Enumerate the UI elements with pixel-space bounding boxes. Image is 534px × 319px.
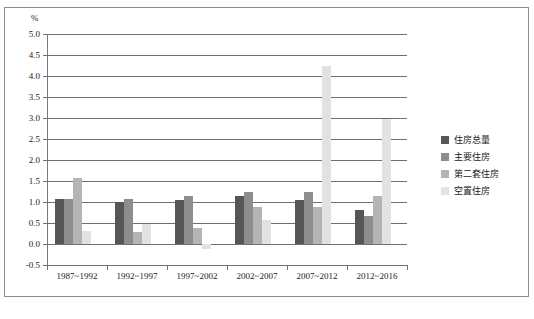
y-axis-tick-label: -0.5 [0, 261, 40, 270]
x-axis-tick-label: 1992~1997 [107, 271, 167, 281]
x-axis-tick-mark [407, 265, 408, 270]
y-axis-tick-labels: 5.04.54.03.53.02.52.01.51.00.50.0-0.5 [0, 34, 44, 265]
legend-item[interactable]: 第二套住房 [441, 165, 529, 182]
legend-swatch-icon [441, 170, 449, 178]
legend-label: 空置住房 [454, 184, 490, 197]
legend-label: 主要住房 [454, 150, 490, 163]
bar-group [287, 34, 347, 265]
legend: 住房总量主要住房第二套住房空置住房 [441, 131, 529, 199]
bar-group [227, 34, 287, 265]
y-axis-tick-label: 0.0 [0, 240, 40, 249]
x-axis-tick-mark [167, 265, 168, 270]
bar [235, 196, 244, 244]
y-axis-tick-label: 2.0 [0, 156, 40, 165]
legend-swatch-icon [441, 187, 449, 195]
bar [142, 224, 151, 244]
legend-label: 住房总量 [454, 133, 490, 146]
bar-group [107, 34, 167, 265]
bar [355, 210, 364, 244]
bar-group [167, 34, 227, 265]
y-axis-tick-label: 2.5 [0, 135, 40, 144]
y-axis-tick-label: 5.0 [0, 30, 40, 39]
legend-item[interactable]: 住房总量 [441, 131, 529, 148]
x-axis-tick-mark [347, 265, 348, 270]
x-axis-tick-label: 1997~2002 [167, 271, 227, 281]
legend-item[interactable]: 主要住房 [441, 148, 529, 165]
y-axis-unit-label: % [31, 13, 39, 23]
bar [373, 196, 382, 244]
bar [262, 220, 271, 244]
x-axis-tick-label: 2002~2007 [227, 271, 287, 281]
y-axis-tick-label: 1.5 [0, 177, 40, 186]
bar [244, 192, 253, 245]
x-axis-tick-label: 1987~1992 [47, 271, 107, 281]
y-axis-tick-label: 3.5 [0, 93, 40, 102]
legend-label: 第二套住房 [454, 167, 499, 180]
bar-group [347, 34, 407, 265]
y-axis-tick-label: 0.5 [0, 219, 40, 228]
bar [73, 178, 82, 244]
legend-swatch-icon [441, 136, 449, 144]
bar [313, 207, 322, 244]
bar [184, 196, 193, 244]
x-axis-tick-mark [227, 265, 228, 270]
bar [133, 232, 142, 244]
y-axis-tick-label: 3.0 [0, 114, 40, 123]
x-axis-tick-mark [47, 265, 48, 270]
bar [253, 207, 262, 244]
bar [322, 66, 331, 245]
bar [295, 200, 304, 244]
x-axis-tick-mark [287, 265, 288, 270]
y-axis-tick-label: 4.0 [0, 72, 40, 81]
y-axis-tick-label: 1.0 [0, 198, 40, 207]
bar [202, 244, 211, 249]
bar-group [47, 34, 107, 265]
x-axis-tick-label: 2007~2012 [287, 271, 347, 281]
bar [193, 228, 202, 244]
x-axis-tick-mark [107, 265, 108, 270]
bar [304, 192, 313, 245]
plot-area [47, 34, 407, 265]
x-axis-tick-label: 2012~2016 [347, 271, 407, 281]
bar [382, 119, 391, 244]
bar [82, 231, 91, 244]
legend-item[interactable]: 空置住房 [441, 182, 529, 199]
bar [175, 200, 184, 244]
bar [55, 199, 64, 244]
figure: % 5.04.54.03.53.02.52.01.51.00.50.0-0.5 … [0, 0, 534, 319]
bar [364, 216, 373, 244]
bar [64, 199, 73, 244]
bar [124, 199, 133, 244]
legend-swatch-icon [441, 153, 449, 161]
bar [115, 202, 124, 244]
y-axis-tick-label: 4.5 [0, 51, 40, 60]
